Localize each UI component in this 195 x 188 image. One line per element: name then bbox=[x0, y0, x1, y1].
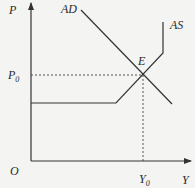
p0-label: P0 bbox=[7, 68, 19, 84]
ad-curve bbox=[81, 10, 172, 104]
as-label: AS bbox=[169, 18, 183, 32]
x-axis-label: Y bbox=[182, 173, 190, 187]
equilibrium-label: E bbox=[137, 54, 146, 68]
y0-label: Y0 bbox=[139, 172, 150, 188]
y-axis-label: P bbox=[8, 3, 17, 17]
ad-as-diagram: P O Y AD AS E P0 Y0 bbox=[0, 0, 195, 188]
ad-label: AD bbox=[60, 2, 77, 16]
origin-label: O bbox=[10, 164, 19, 178]
